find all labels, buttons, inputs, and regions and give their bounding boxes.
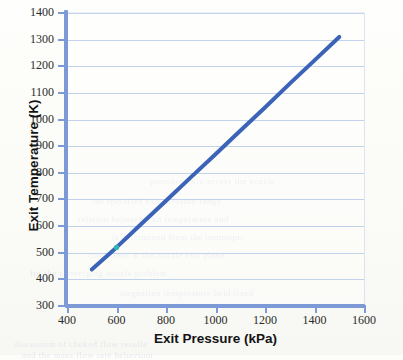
plot-area: [67, 12, 365, 306]
y-tick-1000: [58, 119, 66, 121]
x-tick-800: [166, 305, 168, 313]
bleed-text-6: and the mass flow rate behaviour: [22, 350, 154, 360]
y-tick-400: [58, 278, 66, 280]
y-axis-line: [64, 10, 68, 307]
x-tick-label-800: 800: [142, 313, 190, 328]
y-tick-1100: [58, 92, 66, 94]
y-tick-600: [58, 225, 66, 227]
x-tick-label-1400: 1400: [291, 313, 339, 328]
y-tick-label-1300: 1300: [14, 31, 54, 46]
data-series-layer: [67, 13, 364, 306]
y-tick-1300: [58, 39, 66, 41]
y-tick-500: [58, 252, 66, 254]
x-axis-title: Exit Pressure (kPa): [67, 331, 364, 346]
x-tick-label-1000: 1000: [192, 313, 240, 328]
y-tick-300: [58, 305, 66, 307]
cyan-print-artifact-icon: [114, 245, 119, 250]
series-line-exit-temperature: [92, 37, 340, 270]
y-tick-700: [58, 198, 66, 200]
y-tick-label-400: 400: [14, 271, 54, 286]
y-axis-title: Exit Temperature (K): [26, 61, 41, 271]
x-tick-label-1600: 1600: [340, 313, 388, 328]
x-tick-1000: [216, 305, 218, 313]
y-tick-label-300: 300: [14, 298, 54, 313]
x-tick-1200: [265, 305, 267, 313]
x-tick-label-400: 400: [43, 313, 91, 328]
x-tick-label-600: 600: [93, 313, 141, 328]
x-tick-400: [67, 305, 69, 313]
y-tick-800: [58, 172, 66, 174]
x-tick-label-1200: 1200: [241, 313, 289, 328]
y-tick-label-1400: 1400: [14, 5, 54, 20]
x-tick-1400: [315, 305, 317, 313]
x-tick-600: [117, 305, 119, 313]
y-tick-900: [58, 145, 66, 147]
y-tick-1400: [58, 12, 66, 14]
x-tick-1600: [364, 305, 366, 313]
y-tick-1200: [58, 65, 66, 67]
